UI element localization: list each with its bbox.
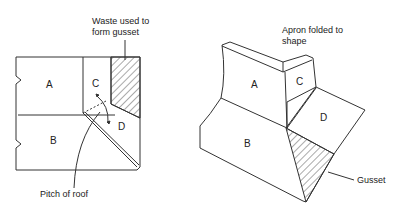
apron-callout-line-1: Apron folded to (282, 25, 343, 35)
right-part-a: A (251, 79, 258, 90)
left-part-b: B (50, 135, 57, 146)
left-part-d: D (118, 121, 125, 132)
right-part-c: C (296, 76, 303, 87)
flat-development-drawing (16, 40, 140, 188)
pitch-of-roof-callout: Pitch of roof (40, 189, 88, 199)
right-part-d: D (320, 112, 327, 123)
waste-callout-line-2: form gusset (92, 27, 139, 37)
waste-callout-line-1: Waste used to (92, 16, 149, 26)
right-part-b: B (244, 138, 251, 149)
folded-apron-drawing (200, 42, 365, 202)
gusset-callout: Gusset (357, 175, 386, 185)
apron-callout-line-2: shape (282, 36, 307, 46)
left-part-a: A (46, 79, 53, 90)
left-part-c: C (92, 78, 99, 89)
